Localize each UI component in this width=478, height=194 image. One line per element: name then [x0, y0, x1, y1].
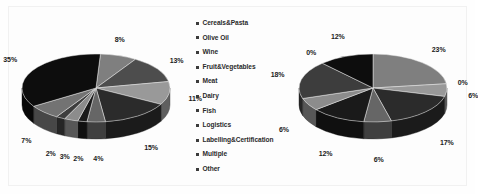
legend-marker-icon [196, 66, 199, 69]
legend-item[interactable]: Olive Oil [196, 31, 282, 46]
legend-marker-icon [196, 124, 199, 127]
pie-slice-side [87, 122, 106, 139]
legend-item[interactable]: Dairy [196, 89, 282, 104]
legend-marker-icon [196, 22, 199, 25]
pie-slice-side [78, 121, 87, 139]
pie-slice-percentage-label: 7% [21, 136, 31, 143]
legend-item-label: Multiple [203, 147, 228, 162]
pie-slice-percentage-label: 6% [468, 92, 478, 99]
chart-legend: Cereals&PastaOlive OilWineFruit&Vegetabl… [196, 16, 282, 180]
pie-slice-percentage-label: 0% [306, 49, 316, 56]
pie-chart-right: 23%0%6%17%6%12%6%18%0%12% [281, 0, 471, 194]
legend-marker-icon [196, 95, 199, 98]
legend-marker-icon [196, 109, 199, 112]
pie-slice[interactable] [373, 54, 446, 88]
legend-item[interactable]: Logistics [196, 118, 282, 133]
pie-slice-percentage-label: 2% [46, 150, 56, 157]
pie-slice-percentage-label: 23% [432, 46, 446, 53]
pie-slice-percentage-label: 12% [331, 33, 345, 40]
legend-item[interactable]: Other [196, 162, 282, 177]
pie-slice-percentage-label: 4% [93, 155, 103, 162]
legend-item[interactable]: Fish [196, 104, 282, 119]
legend-item-label: Fish [203, 104, 216, 119]
pie-slice-percentage-label: 8% [115, 36, 125, 43]
pie-slice-percentage-label: 2% [73, 155, 83, 162]
legend-item[interactable]: Fruit&Vegetables [196, 60, 282, 75]
pie-slice-percentage-label: 6% [374, 156, 384, 163]
pie-slice-percentage-label: 12% [319, 150, 333, 157]
legend-item-label: Labelling&Certification [203, 133, 274, 148]
legend-item[interactable]: Labelling&Certification [196, 133, 282, 148]
pie-slice-side [364, 121, 392, 139]
pie-slice-percentage-label: 0% [458, 78, 468, 85]
pie-right-graphic [281, 0, 471, 194]
legend-item[interactable]: Multiple [196, 147, 282, 162]
legend-marker-icon [196, 80, 199, 83]
pie-slice-percentage-label: 17% [440, 138, 454, 145]
legend-item-label: Cereals&Pasta [203, 16, 249, 31]
pie-chart-left: 8%13%11%15%4%2%3%2%7%35% [4, 0, 194, 194]
pie-left-graphic [4, 0, 194, 194]
legend-item-label: Olive Oil [203, 31, 229, 46]
pie-slice-side [65, 119, 78, 138]
pie-slice-percentage-label: 15% [144, 144, 158, 151]
pie-slice-percentage-label: 13% [170, 57, 184, 64]
pie-slice-percentage-label: 35% [3, 56, 17, 63]
legend-marker-icon [196, 168, 199, 171]
legend-item-label: Logistics [203, 118, 232, 133]
pie-slice-percentage-label: 3% [60, 153, 70, 160]
legend-marker-icon [196, 153, 199, 156]
legend-item[interactable]: Wine [196, 45, 282, 60]
legend-marker-icon [196, 139, 199, 142]
legend-marker-icon [196, 51, 199, 54]
legend-item-label: Dairy [203, 89, 219, 104]
legend-item-label: Other [203, 162, 220, 177]
legend-item-label: Fruit&Vegetables [203, 60, 256, 75]
legend-marker-icon [196, 36, 199, 39]
legend-item[interactable]: Meat [196, 74, 282, 89]
legend-item[interactable]: Cereals&Pasta [196, 16, 282, 31]
pie-slice-side [57, 117, 65, 136]
legend-item-label: Wine [203, 45, 219, 60]
legend-item-label: Meat [203, 74, 218, 89]
